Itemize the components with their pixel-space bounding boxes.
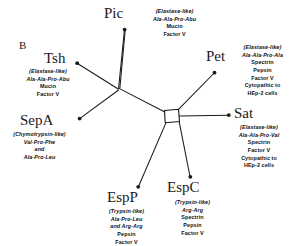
branch-to-sepa xyxy=(80,90,119,118)
annotation-line: (Trypsin-like) xyxy=(163,199,222,207)
annotation-tsh: (Elastase-like) Ala-Ala-Pro-Abu Mucin Fa… xyxy=(17,68,79,99)
taxon-label-espp: EspP xyxy=(107,190,138,205)
branch-to-pic-b xyxy=(119,30,125,88)
annotation-line: Arg-Arg xyxy=(163,207,222,215)
annotation-pet: (Elastase-like) Ala-Ala-Pro-Ala Spectrin… xyxy=(232,44,293,98)
panel-label-b: B xyxy=(19,39,26,51)
annotation-sat: (Elastase-like) Ala-Ala-Pro-Val Spectrin… xyxy=(228,124,290,170)
annotation-line: (Chymotrypsin-like) xyxy=(3,131,76,139)
branch-to-sat xyxy=(179,115,228,116)
taxon-label-sat: Sat xyxy=(234,106,253,121)
tip-node-pet xyxy=(213,71,217,75)
annotation-sepa: (Chymotrypsin-like) Val-Pro-Phe and Ala-… xyxy=(3,131,76,162)
annotation-pic: (Elastase-like) Ala-Ala-Pro-Abu Mucin Fa… xyxy=(153,8,196,39)
branch-to-pet xyxy=(178,73,214,110)
taxon-label-pet: Pet xyxy=(206,49,225,64)
annotation-line: Ala-Ala-Pro-Ala xyxy=(232,52,293,60)
annotation-line: Ala-Ala-Pro-Abu xyxy=(17,76,79,84)
annotation-line: Mucin xyxy=(17,83,79,91)
taxon-label-espc: EspC xyxy=(167,180,200,195)
annotation-espp: (Trypsin-like) Ala-Pro-Leu and Arg-Arg P… xyxy=(98,208,155,246)
annotation-line: Factor V xyxy=(163,230,222,238)
annotation-line: Factor V xyxy=(98,239,155,246)
annotation-line: Ala-Pro-Leu xyxy=(98,216,155,224)
annotation-line: (Elastase-like) xyxy=(153,8,196,16)
annotation-line: Spectrin xyxy=(232,59,293,67)
branch-to-espp xyxy=(139,123,167,187)
annotation-line: Factor V xyxy=(228,147,290,155)
taxon-label-pic: Pic xyxy=(104,6,123,21)
annotation-line: Pepsin xyxy=(232,67,293,75)
annotation-line: Pepsin xyxy=(163,222,222,230)
annotation-line: (Trypsin-like) xyxy=(98,208,155,216)
branch-internal-center-to-left xyxy=(120,89,165,112)
annotation-line: (Elastase-like) xyxy=(228,124,290,132)
annotation-line: Ala-Pro-Leu xyxy=(3,154,76,162)
annotation-line: Factor V xyxy=(17,91,79,99)
tip-node-pic xyxy=(123,28,127,32)
tip-node-sat xyxy=(227,113,231,117)
branch-to-pic xyxy=(120,30,125,88)
annotation-line: Val-Pro-Phe xyxy=(3,139,76,147)
annotation-line: (Elastase-like) xyxy=(17,68,79,76)
branch-to-espc xyxy=(179,122,190,177)
tip-node-sepa xyxy=(78,117,82,121)
taxon-label-tsh: Tsh xyxy=(44,51,65,66)
annotation-line: and Arg-Arg xyxy=(98,223,155,231)
annotation-line: Spectrin xyxy=(163,214,222,222)
annotation-line: and xyxy=(3,146,76,154)
annotation-line: Pepsin xyxy=(98,231,155,239)
annotation-line: Ala-Ala-Pro-Val xyxy=(228,132,290,140)
annotation-espc: (Trypsin-like) Arg-Arg Spectrin Pepsin F… xyxy=(163,199,222,237)
annotation-line: Cytopathic to xyxy=(228,155,290,163)
branch-to-tsh xyxy=(78,64,119,90)
annotation-line: Factor V xyxy=(153,31,196,39)
annotation-line: HEp-2 cells xyxy=(228,162,290,170)
annotation-line: Cytopathic to xyxy=(232,82,293,90)
taxon-label-sepa: SepA xyxy=(20,113,53,128)
annotation-line: Mucin xyxy=(153,23,196,31)
tip-node-tsh xyxy=(75,61,79,65)
annotation-line: Spectrin xyxy=(228,139,290,147)
annotation-line: HEp-2 cells xyxy=(232,90,293,98)
annotation-line: (Elastase-like) xyxy=(232,44,293,52)
central-node-polygon xyxy=(165,109,180,123)
annotation-line: Factor V xyxy=(232,75,293,83)
annotation-line: Ala-Ala-Pro-Abu xyxy=(153,16,196,24)
